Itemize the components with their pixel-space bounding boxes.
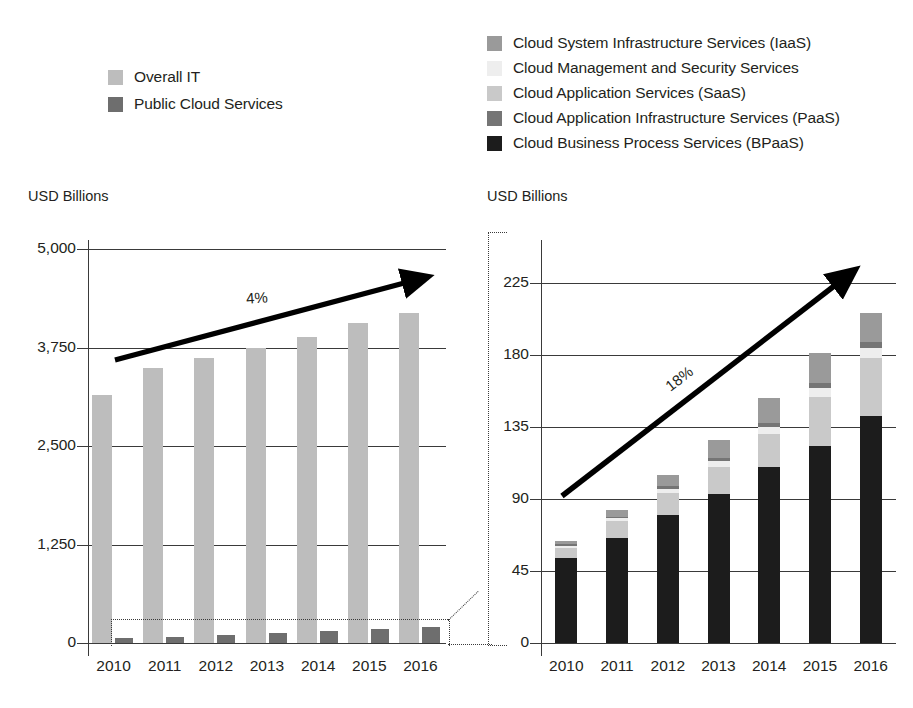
chart-panel-overall-it: USD Billions 01,2502,5003,7505,000 20102… [0,0,470,708]
growth-annotation-left: 4% [245,288,268,306]
figure-root: Overall IT Public Cloud Services Cloud S… [0,0,913,708]
growth-arrow-left [0,0,470,708]
growth-arrow-right [470,0,913,708]
